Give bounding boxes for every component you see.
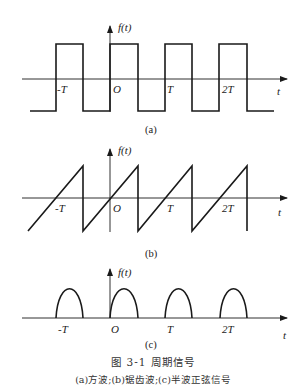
- y-axis-label: f(t): [118, 144, 132, 157]
- panel-label-b: (b): [145, 248, 158, 260]
- tick-label-T: T: [167, 83, 174, 95]
- x-axis-label: t: [283, 329, 287, 341]
- x-axis-label: t: [278, 206, 282, 218]
- y-axis-label: f(t): [118, 21, 132, 34]
- panel-a-square-wave: f(t) -T O T 2T t (a): [22, 21, 287, 136]
- tick-label-T: T: [167, 323, 174, 335]
- panel-c-half-wave-sine: f(t) -T O T 2T t (c): [22, 266, 287, 351]
- tick-label-2T: 2T: [222, 323, 235, 335]
- y-axis-label: f(t): [118, 266, 132, 279]
- figure-canvas: f(t) -T O T 2T t (a) f(t) -T O T 2T t (b…: [0, 0, 306, 392]
- tick-label-2T: 2T: [222, 83, 235, 95]
- tick-label-minus-T: -T: [55, 202, 66, 214]
- figure-caption-subtitle: (a)方波;(b)锯齿波;(c)半波正弦信号: [0, 372, 306, 386]
- tick-label-T: T: [167, 202, 174, 214]
- figure-caption-title: 图 3-1 周期信号: [0, 354, 306, 369]
- half-wave-sine-signal: [56, 289, 247, 318]
- panel-b-sawtooth-wave: f(t) -T O T 2T t (b): [22, 144, 287, 260]
- tick-label-origin: O: [113, 202, 121, 214]
- tick-label-minus-T: -T: [58, 323, 69, 335]
- tick-label-2T: 2T: [222, 202, 235, 214]
- tick-label-origin: O: [113, 83, 121, 95]
- tick-label-origin: O: [111, 323, 119, 335]
- panel-label-c: (c): [145, 339, 157, 351]
- panel-label-a: (a): [145, 124, 157, 136]
- square-wave-signal: [30, 44, 274, 111]
- x-axis-label: t: [277, 85, 281, 97]
- sawtooth-wave-signal: [28, 166, 247, 231]
- tick-label-minus-T: -T: [57, 83, 68, 95]
